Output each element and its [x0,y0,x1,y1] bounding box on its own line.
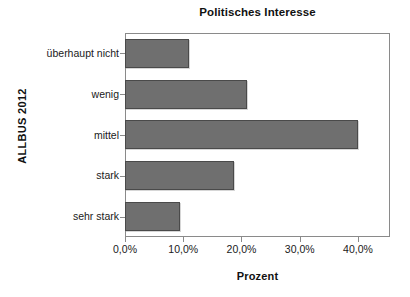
y-axis-tick-labels: überhaupt nichtwenigmittelstarksehr star… [0,33,125,237]
x-tick-label: 10,0% [168,243,198,255]
x-tick-label: 30,0% [285,243,315,255]
x-tick-mark [300,237,301,242]
y-tick-mark [120,135,125,136]
bar-wenig[interactable] [125,80,247,109]
x-tick-mark [125,237,126,242]
y-tick-mark [120,176,125,177]
bar-überhaupt-nicht[interactable] [125,39,189,68]
bar-row [125,33,390,74]
chart-title: Politisches Interesse [125,6,390,18]
x-axis-title: Prozent [125,270,390,282]
bar-row [125,115,390,156]
y-tick-mark [120,94,125,95]
bar-mittel[interactable] [125,120,358,149]
y-tick-mark [120,217,125,218]
bar-sehr-stark[interactable] [125,202,180,231]
y-tick-label: sehr stark [73,196,125,237]
x-tick-mark [183,237,184,242]
bar-row [125,74,390,115]
x-tick-label: 40,0% [343,243,373,255]
x-axis-ticks: 0,0%10,0%20,0%30,0%40,0% [125,237,391,267]
bars-layer [125,33,390,237]
x-tick-label: 20,0% [227,243,257,255]
bar-row [125,155,390,196]
x-tick-mark [241,237,242,242]
y-tick-label: überhaupt nicht [47,33,125,74]
x-tick-mark [358,237,359,242]
bar-stark[interactable] [125,161,234,190]
y-tick-mark [120,53,125,54]
bar-row [125,196,390,237]
x-tick-label: 0,0% [113,243,137,255]
